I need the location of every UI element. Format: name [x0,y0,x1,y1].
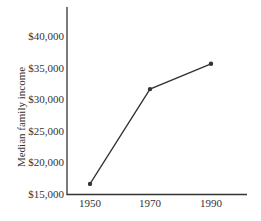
svg-text:Median family income: Median family income [15,67,27,167]
y-tick-label: $35,000 [28,62,64,74]
y-axis-title: Median family income [15,67,27,167]
x-tick-label: 1990 [200,197,223,209]
y-tick-label: $30,000 [28,93,64,105]
y-tick-label: $15,000 [28,188,64,200]
data-series [88,62,213,186]
x-tick-label: 1970 [139,197,162,209]
y-tick-label: $20,000 [28,156,64,168]
x-tick-label: 1950 [79,197,102,209]
data-point-marker [148,87,152,91]
data-point-marker [88,182,92,186]
x-axis-tick-labels: 195019701990 [79,197,223,209]
y-tick-label: $40,000 [28,30,64,42]
series-line [90,64,211,184]
y-tick-label: $25,000 [28,125,64,137]
line-chart: Median family income $15,000$20,000$25,0… [0,0,261,221]
data-point-marker [209,62,213,66]
y-axis-tick-labels: $15,000$20,000$25,000$30,000$35,000$40,0… [28,30,64,200]
